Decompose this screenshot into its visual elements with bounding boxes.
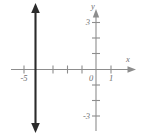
y-tick-label-neg3: -3: [83, 111, 90, 121]
x-tick-label-1: 1: [109, 73, 113, 83]
coordinate-plane-svg: y x 3 -3 -5 0 1: [0, 0, 141, 135]
x-axis-label: x: [125, 54, 130, 64]
plot-line-bottom-arrowhead-icon: [31, 123, 40, 133]
plotted-vertical-line-group: [31, 3, 40, 133]
graph-figure: y x 3 -3 -5 0 1: [0, 0, 141, 135]
x-tick-label-neg5: -5: [20, 73, 27, 83]
origin-label: 0: [89, 73, 94, 83]
x-axis-arrowhead-icon: [128, 66, 137, 72]
y-axis-label: y: [90, 1, 95, 11]
y-tick-label-3: 3: [85, 17, 90, 27]
x-axis-group: [11, 66, 136, 74]
plot-line-top-arrowhead-icon: [31, 3, 40, 13]
